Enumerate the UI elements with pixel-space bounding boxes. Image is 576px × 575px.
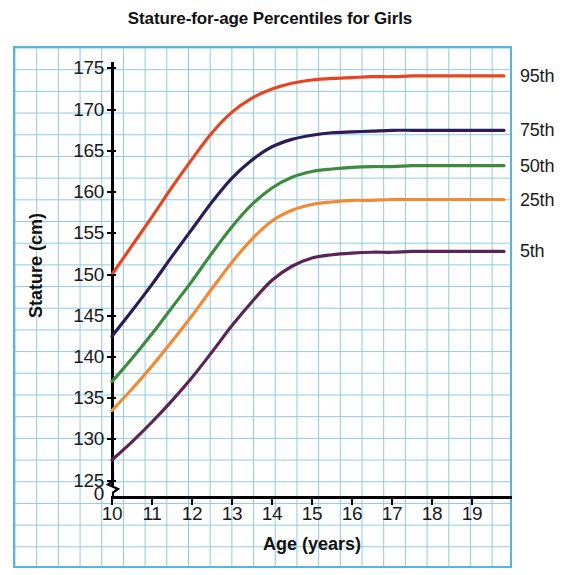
x-tick-label: 16 — [332, 503, 372, 525]
percentile-curves — [112, 52, 512, 497]
x-tick-mark — [391, 497, 393, 505]
x-tick-mark — [151, 497, 153, 505]
y-tick-mark — [107, 315, 116, 317]
y-tick-label: 160 — [46, 181, 104, 203]
x-tick-label: 18 — [412, 503, 452, 525]
y-axis-tick-labels: 1251301351401451501551601651701750 — [0, 0, 104, 575]
x-tick-label: 13 — [212, 503, 252, 525]
x-tick-label: 12 — [172, 503, 212, 525]
percentile-curve-75th — [112, 130, 504, 336]
y-tick-label: 165 — [46, 140, 104, 162]
x-tick-mark — [351, 497, 353, 505]
percentile-curve-25th — [112, 199, 504, 410]
x-tick-label: 10 — [92, 503, 132, 525]
y-tick-mark — [107, 356, 116, 358]
y-tick-mark — [107, 67, 116, 69]
series-label-75th: 75th — [520, 120, 554, 141]
y-tick-label: 170 — [46, 99, 104, 121]
x-tick-mark — [191, 497, 193, 505]
plot-area — [112, 52, 512, 497]
y-tick-label: 155 — [46, 222, 104, 244]
x-tick-mark — [431, 497, 433, 505]
y-tick-label: 145 — [46, 305, 104, 327]
y-tick-mark — [107, 150, 116, 152]
percentile-curve-5th — [112, 251, 504, 460]
x-tick-mark — [231, 497, 233, 505]
y-tick-mark — [107, 232, 116, 234]
series-label-5th: 5th — [520, 241, 544, 262]
y-axis-title: Stature (cm) — [26, 166, 47, 366]
y-tick-label: 175 — [46, 57, 104, 79]
y-tick-label: 135 — [46, 387, 104, 409]
x-tick-mark — [271, 497, 273, 505]
y-tick-mark — [107, 397, 116, 399]
y-tick-label: 150 — [46, 264, 104, 286]
series-label-50th: 50th — [520, 155, 554, 176]
x-tick-mark — [471, 497, 473, 505]
percentile-curve-95th — [112, 76, 504, 275]
x-tick-label: 15 — [292, 503, 332, 525]
y-zero-label: 0 — [46, 483, 104, 505]
x-axis-title: Age (years) — [112, 534, 512, 555]
y-tick-mark — [107, 191, 116, 193]
series-label-25th: 25th — [520, 189, 554, 210]
y-tick-mark — [107, 274, 116, 276]
x-tick-mark — [111, 497, 113, 505]
y-tick-label: 140 — [46, 346, 104, 368]
x-tick-label: 14 — [252, 503, 292, 525]
y-tick-mark — [107, 438, 116, 440]
y-tick-label: 130 — [46, 428, 104, 450]
growth-chart-figure: Stature-for-age Percentiles for Girls 12… — [0, 0, 576, 575]
x-tick-label: 17 — [372, 503, 412, 525]
x-tick-label: 19 — [452, 503, 492, 525]
series-label-95th: 95th — [520, 65, 554, 86]
x-tick-mark — [311, 497, 313, 505]
y-tick-mark — [107, 480, 116, 482]
y-tick-mark — [107, 109, 116, 111]
x-tick-label: 11 — [132, 503, 172, 525]
